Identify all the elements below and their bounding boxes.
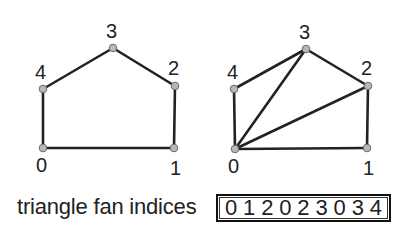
vertex-3	[109, 44, 117, 52]
vertex-label-0: 0	[36, 154, 47, 176]
vertex-4	[39, 85, 47, 93]
edge-3-4	[234, 49, 306, 89]
caption-label: triangle fan indices	[17, 193, 196, 221]
index-value: 4	[370, 197, 382, 219]
index-value: 2	[261, 197, 273, 219]
edge-1-2	[174, 86, 175, 148]
index-value: 0	[225, 197, 237, 219]
edge-0-1	[235, 148, 367, 149]
index-value: 2	[297, 197, 309, 219]
vertex-4	[230, 85, 238, 93]
vertex-label-4: 4	[227, 61, 238, 83]
index-value: 3	[352, 197, 364, 219]
vertex-label-2: 2	[168, 57, 179, 79]
vertex-0	[231, 145, 239, 153]
indices-box: 0 1 2 0 2 3 0 3 4	[216, 194, 391, 222]
vertex-label-4: 4	[35, 61, 46, 83]
vertex-label-3: 3	[106, 20, 117, 42]
indices-list: 0 1 2 0 2 3 0 3 4	[219, 197, 388, 219]
vertex-label-0: 0	[228, 155, 239, 177]
vertex-0	[39, 144, 47, 152]
vertex-2	[171, 82, 179, 90]
vertex-1	[363, 144, 371, 152]
index-value: 1	[243, 197, 255, 219]
edge-2-3	[113, 48, 175, 86]
edge-2-3	[306, 49, 368, 86]
edge-0-3	[235, 49, 306, 149]
vertex-label-1: 1	[170, 157, 181, 179]
vertex-3	[302, 45, 310, 53]
triangle-fan-diagram: 01234	[227, 21, 374, 179]
index-value: 3	[315, 197, 327, 219]
edge-3-4	[43, 48, 113, 89]
index-value: 0	[334, 197, 346, 219]
edge-0-2	[235, 86, 368, 149]
edge-1-2	[367, 86, 368, 148]
vertex-label-3: 3	[299, 21, 310, 43]
vertex-1	[170, 144, 178, 152]
index-value: 0	[279, 197, 291, 219]
vertex-label-1: 1	[363, 157, 374, 179]
edge-4-0	[234, 89, 235, 149]
polygon-diagram: 01234	[35, 20, 181, 179]
vertex-2	[364, 82, 372, 90]
vertex-label-2: 2	[361, 57, 372, 79]
